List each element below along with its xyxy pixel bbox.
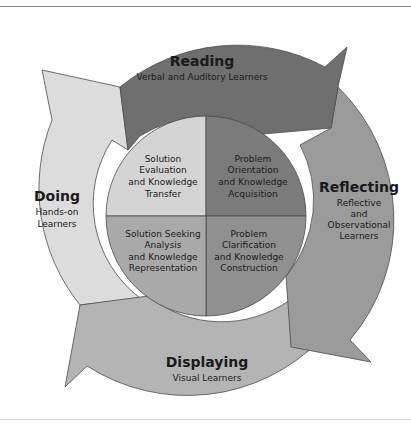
quadrant-bottom-right-line-1: Problem — [231, 229, 268, 239]
quadrant-top-left-line-1: Solution — [145, 154, 182, 164]
quadrant-top-left-line-2: Evaluation — [139, 165, 187, 175]
quadrant-bottom-left-line-4: Representation — [129, 263, 197, 273]
displaying-subtitle: Visual Learners — [173, 373, 242, 383]
quadrant-top-right-line-2: Orientation — [228, 165, 279, 175]
inner-circle — [106, 116, 306, 316]
quadrant-bottom-left-line-3: and Knowledge — [128, 252, 198, 262]
displaying-title: Displaying — [166, 354, 249, 370]
reflecting-subtitle-line-2: and — [351, 209, 368, 219]
doing-subtitle-line-2: Learners — [37, 219, 76, 229]
doing-label: Doing Hands-on Learners — [34, 188, 80, 229]
learning-cycle-diagram: Reading Verbal and Auditory Learners Ref… — [0, 0, 411, 423]
quadrant-bottom-right-line-4: Construction — [220, 263, 277, 273]
reflecting-subtitle-line-4: Learners — [339, 231, 378, 241]
reflecting-subtitle-line-1: Reflective — [337, 198, 382, 208]
reflecting-subtitle-line-3: Observational — [328, 220, 391, 230]
reflecting-title: Reflecting — [319, 179, 399, 195]
quadrant-top-left-line-3: and Knowledge — [128, 177, 198, 187]
quadrant-top-left-line-4: Transfer — [144, 189, 181, 199]
quadrant-bottom-left-line-2: Analysis — [144, 240, 181, 250]
reading-subtitle: Verbal and Auditory Learners — [136, 72, 267, 82]
quadrant-bottom-left-line-1: Solution Seeking — [125, 229, 200, 239]
doing-subtitle-line-1: Hands-on — [35, 207, 78, 217]
quadrant-top-right-line-3: and Knowledge — [218, 177, 288, 187]
doing-title: Doing — [34, 188, 80, 204]
quadrant-top-right-line-1: Problem — [235, 154, 272, 164]
quadrant-bottom-right-line-3: and Knowledge — [214, 252, 284, 262]
reading-title: Reading — [170, 53, 235, 69]
quadrant-top-right-line-4: Acquisition — [228, 189, 277, 199]
quadrant-bottom-right-line-2: Clarification — [222, 240, 276, 250]
displaying-label: Displaying Visual Learners — [166, 354, 249, 383]
